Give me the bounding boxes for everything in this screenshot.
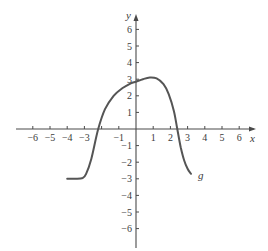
x-tick-label: 1: [151, 132, 156, 143]
x-tick-label: 3: [185, 132, 190, 143]
x-tick-label: 2: [168, 132, 173, 143]
x-axis-arrow-icon: [249, 127, 256, 132]
y-tick-label: −3: [121, 173, 132, 184]
y-tick-label: 6: [127, 24, 132, 35]
y-tick-label: 2: [127, 90, 132, 101]
function-graph: −6−5−4−3−1123456 654321−1−2−3−4−5−6 x y …: [0, 0, 268, 251]
x-axis-label: x: [249, 132, 255, 144]
y-tick-label: −4: [121, 190, 132, 201]
x-tick-label: 5: [220, 132, 225, 143]
y-tick-label: 4: [127, 57, 132, 68]
y-tick-label: −2: [121, 157, 132, 168]
x-tick-label: −3: [79, 132, 90, 143]
y-tick-label: 5: [127, 41, 132, 52]
y-axis-arrow-icon: [134, 14, 139, 21]
y-tick-label: −6: [121, 223, 132, 234]
x-tick-label: 4: [202, 132, 207, 143]
y-tick-label: −1: [121, 140, 132, 151]
y-tick-label: 1: [127, 107, 132, 118]
y-axis-label: y: [125, 9, 131, 21]
x-tick-label: 6: [237, 132, 242, 143]
x-tick-label: −4: [62, 132, 73, 143]
x-tick-label: −6: [27, 132, 38, 143]
curve-label-g: g: [198, 169, 204, 181]
x-tick-label: −5: [45, 132, 56, 143]
y-axis: [134, 14, 139, 248]
y-tick-label: −5: [121, 207, 132, 218]
